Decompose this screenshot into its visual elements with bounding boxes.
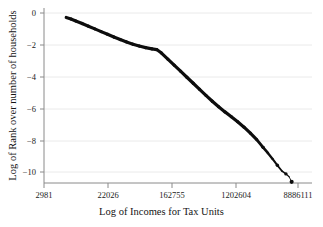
y-axis-title: Log of Rank over number of households xyxy=(7,6,18,186)
x-axis-ticks xyxy=(44,183,298,188)
x-tick-label-2981: 2981 xyxy=(36,191,53,200)
x-tick-label-1202604: 1202604 xyxy=(221,191,251,200)
tail-data-point xyxy=(261,146,264,149)
x-tick-label-162755: 162755 xyxy=(159,191,185,200)
endpoint-marker xyxy=(290,180,294,184)
x-tick-label-22026: 22026 xyxy=(97,191,118,200)
chart-figure: 0 −2 −4 −6 −8 −10 2981 22026 162755 1202… xyxy=(0,0,323,227)
x-tick-label-8886111: 8886111 xyxy=(283,191,312,200)
tail-data-point xyxy=(276,164,279,167)
gridlines-horizontal xyxy=(44,13,312,172)
series-segment xyxy=(268,153,273,159)
x-axis-title: Log of Incomes for Tax Units xyxy=(0,206,323,217)
tail-data-point xyxy=(284,172,287,175)
data-series-line xyxy=(66,17,291,181)
y-axis-ticks xyxy=(40,13,44,172)
